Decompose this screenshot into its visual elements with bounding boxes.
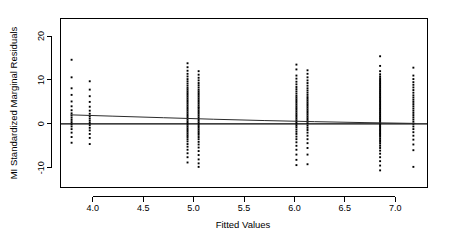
data-point (198, 138, 200, 140)
data-point (187, 83, 189, 85)
x-tick-label: 5.0 (187, 203, 200, 213)
data-point (295, 107, 297, 109)
data-point (307, 76, 309, 78)
data-point (412, 135, 414, 137)
data-point (379, 65, 381, 67)
data-point (307, 108, 309, 110)
data-point (187, 78, 189, 80)
data-point (295, 164, 297, 166)
data-point (379, 136, 381, 138)
data-point (379, 139, 381, 141)
data-point (187, 106, 189, 108)
data-point (412, 101, 414, 103)
data-point (379, 70, 381, 72)
data-point (89, 110, 91, 112)
data-point (89, 133, 91, 135)
data-point (295, 86, 297, 88)
data-point (198, 92, 200, 94)
data-point (89, 101, 91, 103)
data-point (307, 96, 309, 98)
data-point (295, 131, 297, 133)
data-point (198, 144, 200, 146)
data-point (379, 141, 381, 143)
data-point (198, 115, 200, 117)
point-cluster (412, 67, 414, 168)
data-point (198, 127, 200, 129)
data-point (71, 87, 73, 89)
data-point (89, 137, 91, 139)
data-point (187, 162, 189, 164)
data-point (307, 105, 309, 107)
data-point (307, 92, 309, 94)
plot-frame (61, 19, 428, 188)
data-point (71, 105, 73, 107)
data-point (412, 139, 414, 141)
data-point (379, 160, 381, 162)
data-point (187, 75, 189, 77)
data-point (412, 97, 414, 99)
data-point (198, 116, 200, 118)
y-tick-label: 10 (36, 75, 46, 85)
data-point (379, 147, 381, 149)
x-tick-label: 7.0 (389, 203, 402, 213)
data-point (307, 98, 309, 100)
point-cluster (295, 64, 297, 166)
data-point (71, 59, 73, 61)
data-point (307, 101, 309, 103)
data-point (379, 55, 381, 57)
y-axis: -1001020 (36, 31, 52, 174)
data-point (412, 86, 414, 88)
data-point (295, 102, 297, 104)
data-point (295, 75, 297, 77)
data-point (198, 96, 200, 98)
data-point (89, 89, 91, 91)
data-point (295, 145, 297, 147)
loess-smooth-line (71, 115, 416, 124)
data-point (307, 107, 309, 109)
data-point (198, 147, 200, 149)
data-point (187, 108, 189, 110)
data-point (187, 80, 189, 82)
data-point (307, 82, 309, 84)
data-point (71, 126, 73, 128)
data-point (307, 125, 309, 127)
data-point (412, 121, 414, 123)
data-point (412, 110, 414, 112)
data-point (307, 94, 309, 96)
data-point (307, 112, 309, 114)
data-point (71, 132, 73, 134)
data-point (198, 104, 200, 106)
data-point (379, 145, 381, 147)
data-point (307, 135, 309, 137)
y-tick-label: 20 (36, 31, 46, 41)
data-point (187, 127, 189, 129)
data-point (295, 112, 297, 114)
plot-border (61, 19, 428, 188)
data-point (307, 114, 309, 116)
trend-lines-layer (61, 115, 428, 124)
data-point (412, 84, 414, 86)
data-point (295, 81, 297, 83)
data-point (198, 103, 200, 105)
data-point (187, 111, 189, 113)
data-point (379, 153, 381, 155)
data-point (198, 141, 200, 143)
data-point (295, 88, 297, 90)
data-point (198, 162, 200, 164)
data-point (187, 87, 189, 89)
data-point (187, 138, 189, 140)
data-point (198, 97, 200, 99)
data-point (412, 92, 414, 94)
data-point (295, 78, 297, 80)
data-point (187, 90, 189, 92)
data-point (198, 129, 200, 131)
data-point (412, 103, 414, 105)
data-point (187, 94, 189, 96)
data-point (379, 137, 381, 139)
data-point (198, 99, 200, 101)
data-point (295, 118, 297, 120)
point-cluster (187, 62, 189, 163)
data-point (307, 73, 309, 75)
data-point (295, 111, 297, 113)
data-point (295, 133, 297, 135)
